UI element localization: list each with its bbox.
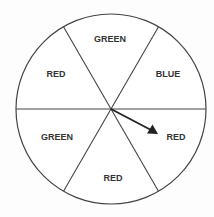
- section-label-top: GREEN: [94, 34, 126, 44]
- section-label-bottom: RED: [103, 173, 123, 183]
- section-label-lower-right: RED: [166, 132, 186, 142]
- spinner-diagram: GREEN BLUE RED RED GREEN RED: [0, 0, 214, 217]
- section-label-upper-left: RED: [46, 69, 66, 79]
- section-label-lower-left: GREEN: [41, 132, 73, 142]
- section-label-upper-right: BLUE: [156, 69, 181, 79]
